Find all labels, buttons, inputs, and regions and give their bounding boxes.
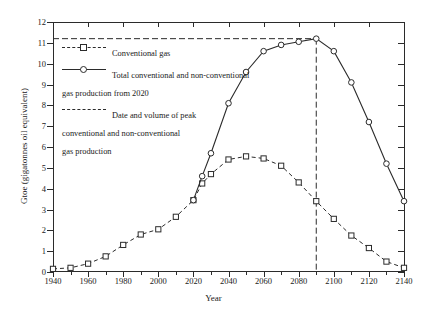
- data-point-square: [50, 266, 55, 271]
- data-point-square: [331, 216, 336, 221]
- data-point-square: [173, 214, 178, 219]
- legend-label: Conventional gas: [112, 49, 170, 58]
- data-point-circle: [331, 48, 337, 54]
- data-point-circle: [349, 80, 355, 86]
- data-point-square: [156, 227, 161, 232]
- long-dashed-line-icon: [62, 104, 106, 115]
- data-point-circle: [384, 161, 390, 167]
- data-point-circle: [366, 119, 372, 125]
- data-point-square: [86, 261, 91, 266]
- dashed-line-square-marker-icon: [62, 42, 106, 53]
- data-point-square: [366, 245, 371, 250]
- data-point-circle: [401, 198, 407, 204]
- legend-entry-total-gas: Total conventional and non-conventional …: [62, 64, 312, 100]
- data-point-square: [384, 259, 389, 264]
- series-line-0: [53, 156, 404, 269]
- data-point-square: [138, 232, 143, 237]
- data-point-square: [208, 171, 213, 176]
- solid-line-circle-marker-icon: [62, 64, 106, 75]
- data-point-circle: [199, 173, 205, 179]
- data-point-square: [103, 254, 108, 259]
- legend-label: Total conventional and non-conventional …: [62, 71, 249, 98]
- data-point-square: [121, 242, 126, 247]
- data-point-square: [314, 199, 319, 204]
- chart-legend: Conventional gas Total conventional and …: [62, 42, 312, 162]
- gas-production-chart: 0123456789101112 19401960198020002020204…: [0, 0, 427, 317]
- legend-entry-conventional-gas: Conventional gas: [62, 42, 312, 60]
- data-point-square: [68, 265, 73, 270]
- data-point-square: [349, 233, 354, 238]
- data-point-square: [401, 265, 406, 270]
- data-point-square: [296, 180, 301, 185]
- data-point-circle: [313, 36, 319, 42]
- legend-entry-peak-marker: Date and volume of peak conventional and…: [62, 104, 312, 158]
- data-point-circle: [191, 197, 197, 203]
- data-point-square: [279, 163, 284, 168]
- legend-label: Date and volume of peak conventional and…: [62, 111, 196, 156]
